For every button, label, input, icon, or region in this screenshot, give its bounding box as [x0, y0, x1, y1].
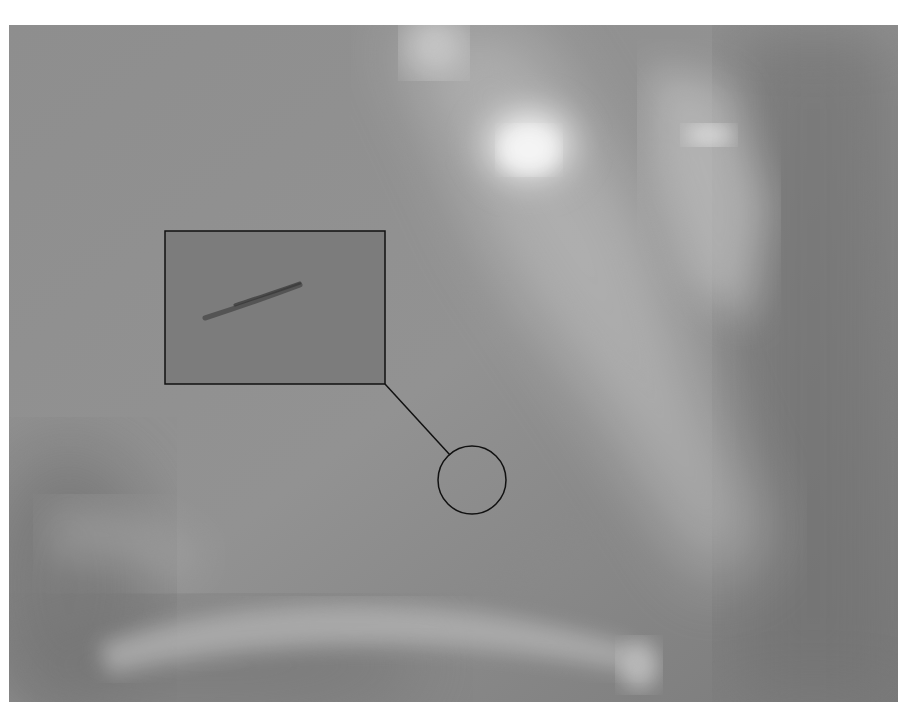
sky-image	[9, 25, 898, 702]
sky-photograph	[9, 25, 898, 702]
